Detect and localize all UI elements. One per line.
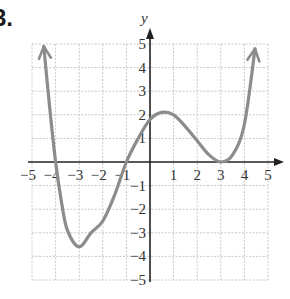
y-tick-label: 3: [139, 83, 147, 99]
x-tick-label: 5: [264, 167, 272, 183]
x-tick-label: −5: [20, 167, 36, 183]
y-tick-label: −3: [130, 225, 146, 241]
y-axis-label: y: [139, 10, 148, 26]
y-tick-label: −1: [130, 178, 146, 194]
y-tick-label: 2: [139, 107, 147, 123]
x-axis-arrow-icon: [274, 158, 284, 166]
x-tick-label: 3: [217, 167, 225, 183]
x-tick-label: 4: [241, 167, 249, 183]
function-graph: −5−4−3−2−112345 54321−1−2−3−4−5 y: [0, 0, 290, 299]
y-tick-label: −4: [130, 248, 146, 264]
y-tick-label: 5: [139, 36, 147, 52]
axes: [28, 28, 284, 282]
x-tick-label: −3: [67, 167, 83, 183]
y-tick-label: −2: [130, 201, 146, 217]
y-tick-label: 4: [139, 60, 147, 76]
y-axis-arrow-icon: [146, 28, 154, 39]
x-tick-label: 2: [193, 167, 201, 183]
x-tick-label: −2: [91, 167, 107, 183]
x-tick-label: 1: [170, 167, 178, 183]
curve-end-arrows: [39, 46, 259, 61]
y-tick-label: −5: [130, 272, 146, 288]
